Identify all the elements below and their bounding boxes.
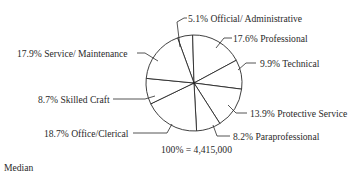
label-official: 5.1% Official/ Administrative bbox=[188, 13, 302, 24]
total-label: 100% = 4,415,000 bbox=[161, 144, 232, 155]
label-protective: 13.9% Protective Service bbox=[250, 108, 347, 119]
leader-clerical bbox=[133, 124, 172, 133]
label-craft: 8.7% Skilled Craft bbox=[38, 94, 110, 105]
leader-paraprofessional bbox=[213, 125, 230, 136]
label-technical: 9.9% Technical bbox=[260, 58, 319, 69]
footer-median-text: Median bbox=[4, 162, 33, 171]
label-paraprofessional: 8.2% Paraprofessional bbox=[233, 131, 319, 142]
label-clerical: 18.7% Office/Clerical bbox=[44, 128, 129, 139]
label-service: 17.9% Service/ Maintenance bbox=[17, 48, 128, 59]
label-professional: 17.6% Professional bbox=[233, 33, 308, 44]
pie-center-dot bbox=[193, 82, 196, 85]
leader-technical bbox=[238, 63, 256, 70]
pie-slices bbox=[146, 35, 242, 131]
